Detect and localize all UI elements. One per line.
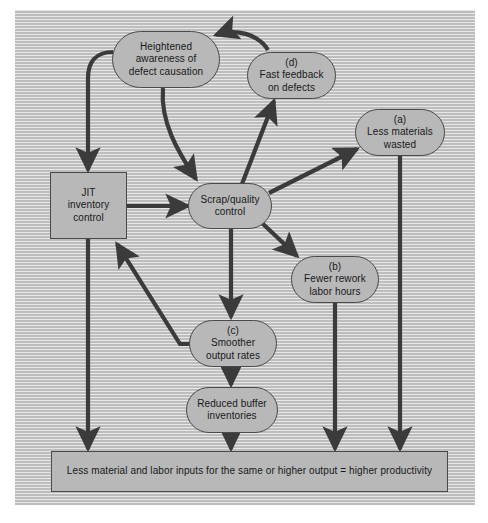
- node-text-line: labor hours: [300, 286, 370, 298]
- node-text-line: Fewer rework: [300, 273, 370, 285]
- node-text-line: JIT: [64, 187, 113, 199]
- edge-smoother-to-jit: [117, 244, 192, 344]
- edge-scrap-to-less-materials: [269, 149, 357, 193]
- node-smoother-output-rates[interactable]: (c) Smoother output rates: [189, 320, 277, 367]
- node-fewer-rework-labor-hours[interactable]: (b) Fewer rework labor hours: [291, 256, 379, 303]
- connector-layer: [0, 0, 488, 523]
- node-text-line: on defects: [255, 82, 327, 94]
- node-text-line: output rates: [202, 350, 264, 362]
- edge-scrap-to-fewer-rework: [262, 223, 297, 256]
- node-text-line: Smoother: [202, 337, 264, 349]
- node-label-c: (c): [202, 325, 264, 337]
- node-text-line: Fast feedback: [255, 69, 327, 81]
- node-fast-feedback-on-defects[interactable]: (d) Fast feedback on defects: [247, 52, 336, 99]
- node-text-line: defect causation: [125, 66, 207, 78]
- node-label-a: (a): [363, 114, 437, 126]
- node-text-line: inventory: [64, 199, 113, 211]
- edge-awareness-to-scrap: [163, 88, 196, 179]
- node-text-line: control: [196, 206, 263, 218]
- outcome-text: Less material and labor inputs for the s…: [63, 465, 436, 477]
- node-text-line: awareness of: [125, 53, 207, 65]
- edge-fast-feedback-to-awareness: [216, 32, 268, 50]
- node-heightened-awareness[interactable]: Heightened awareness of defect causation: [112, 31, 220, 88]
- node-text-line: Reduced buffer: [193, 398, 271, 410]
- node-text-line: wasted: [363, 139, 437, 151]
- node-reduced-buffer-inventories[interactable]: Reduced buffer inventories: [186, 387, 278, 433]
- node-label-b: (b): [300, 261, 370, 273]
- node-text-line: Heightened: [125, 41, 207, 53]
- node-label-d: (d): [255, 57, 327, 69]
- edge-awareness-to-jit: [88, 52, 113, 170]
- node-scrap-quality-control[interactable]: Scrap/quality control: [188, 183, 272, 229]
- node-less-materials-wasted[interactable]: (a) Less materials wasted: [355, 109, 445, 156]
- node-text-line: Less materials: [363, 126, 437, 138]
- node-text-line: control: [64, 212, 113, 224]
- diagram-canvas: Heightened awareness of defect causation…: [0, 0, 488, 523]
- node-text-line: inventories: [193, 410, 271, 422]
- edge-scrap-to-fast-feedback: [242, 101, 274, 184]
- node-outcome-productivity[interactable]: Less material and labor inputs for the s…: [51, 451, 448, 492]
- node-jit-inventory-control[interactable]: JIT inventory control: [50, 172, 127, 239]
- node-text-line: Scrap/quality: [196, 194, 263, 206]
